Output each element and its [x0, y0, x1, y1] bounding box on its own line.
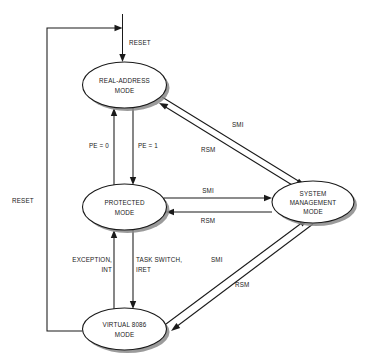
edge-label-exception-int-line1: EXCEPTION,: [72, 256, 112, 263]
edge-label-rsm-smm-to-real: RSM: [201, 146, 215, 153]
virtual-8086-mode-label-line2: MODE: [115, 331, 135, 338]
protected-mode-label-line2: MODE: [115, 209, 135, 216]
edge-label-task-switch-line1: TASK SWITCH,: [136, 256, 182, 263]
reset-loop-arrowhead: [115, 25, 123, 31]
protected-mode-label-line1: PROTECTED: [104, 199, 144, 206]
virtual-8086-mode-label-line1: VIRTUAL 8086: [103, 321, 147, 328]
system-management-mode-label-line3: MODE: [303, 208, 323, 215]
edge-rsm-smm-to-v86: [171, 224, 313, 331]
edge-smi-v86-to-smm: [166, 219, 308, 325]
edge-rsm-smm-to-protected: [166, 209, 272, 215]
protected-mode-ellipse: [83, 184, 167, 230]
node-real-address-mode[interactable]: REAL-ADDRESS MODE: [83, 62, 170, 111]
edge-label-reset-top: RESET: [129, 39, 151, 46]
rsm-smm-to-v86-arrowhead: [171, 323, 180, 331]
state-diagram-container: REAL-ADDRESS MODE PROTECTED MODE VIRTUAL…: [0, 0, 368, 364]
edge-reset-entry: [119, 14, 125, 62]
edge-label-rsm-smm-to-v86: RSM: [235, 281, 249, 288]
rsm-smm-to-real-line: [164, 106, 297, 188]
edge-label-pe-one: PE = 1: [138, 142, 158, 149]
rsm-smm-to-v86-line: [176, 224, 313, 327]
system-management-mode-label-line2: MANAGEMENT: [290, 199, 337, 206]
edge-pe-one: [130, 108, 136, 185]
virtual-8086-mode-ellipse: [83, 308, 167, 350]
node-virtual-8086-mode[interactable]: VIRTUAL 8086 MODE: [83, 308, 170, 353]
node-system-management-mode[interactable]: SYSTEM MANAGEMENT MODE: [272, 181, 357, 226]
system-management-mode-label-line1: SYSTEM: [300, 190, 327, 197]
edge-pe-zero: [111, 108, 117, 185]
edge-smi-real-to-smm: [162, 97, 305, 185]
smi-v86-to-smm-line: [166, 222, 303, 324]
smi-real-to-smm-line: [162, 97, 300, 182]
real-address-mode-label-line2: MODE: [115, 87, 135, 94]
edge-rsm-smm-to-real: [159, 103, 297, 188]
edge-label-reset-left: RESET: [12, 197, 34, 204]
edge-label-smi-real-to-smm: SMI: [232, 121, 244, 128]
edge-label-smi-protected-to-smm: SMI: [202, 187, 214, 194]
edge-label-task-switch-line2: IRET: [136, 266, 151, 273]
smi-protected-to-smm-arrowhead: [264, 195, 272, 201]
reset-entry-arrowhead: [119, 54, 125, 62]
edge-smi-protected-to-smm: [164, 195, 272, 201]
real-address-mode-label-line1: REAL-ADDRESS: [99, 77, 150, 84]
edge-label-pe-zero: PE = 0: [89, 142, 109, 149]
node-protected-mode[interactable]: PROTECTED MODE: [83, 184, 170, 233]
edge-label-smi-v86-to-smm: SMI: [211, 256, 223, 263]
rsm-smm-to-real-arrowhead: [159, 103, 168, 110]
edge-label-exception-int-line2: INT: [101, 266, 112, 273]
real-address-mode-ellipse: [83, 62, 167, 108]
processor-modes-state-diagram: REAL-ADDRESS MODE PROTECTED MODE VIRTUAL…: [0, 0, 368, 364]
edge-label-rsm-smm-to-protected: RSM: [201, 217, 215, 224]
